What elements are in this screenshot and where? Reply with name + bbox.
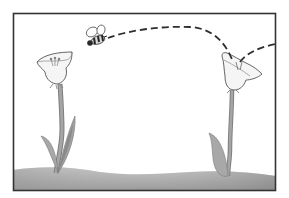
- pollination-illustration: [0, 0, 289, 198]
- illustration-scene: [0, 0, 289, 198]
- background: [13, 13, 276, 191]
